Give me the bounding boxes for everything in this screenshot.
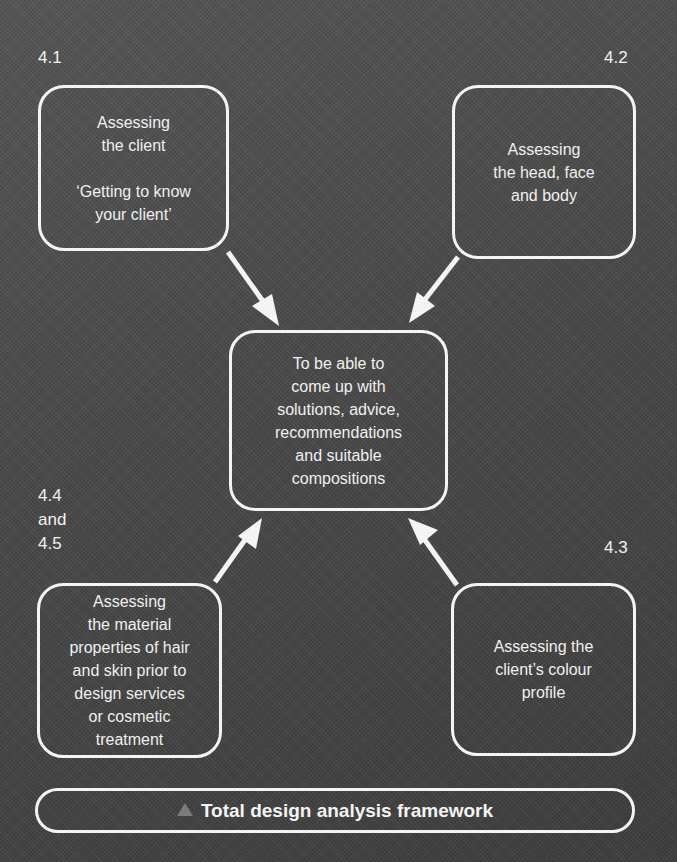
node-text: Assessing the material properties of hai… (69, 590, 189, 751)
node-text: Assessing the head, face and body (493, 138, 594, 207)
node-assessing-the-client: Assessing the client ‘Getting to know yo… (38, 85, 229, 251)
node-text: To be able to come up with solutions, ad… (275, 352, 402, 490)
label-4-2: 4.2 (604, 46, 628, 70)
arrow-4-4-to-center (215, 518, 262, 582)
label-4-3: 4.3 (604, 536, 628, 560)
node-colour-profile: Assessing the client’s colour profile (451, 583, 636, 756)
framework-title: Total design analysis framework (201, 800, 493, 822)
label-and: and (38, 508, 66, 532)
label-4-4: 4.4 (38, 484, 66, 508)
node-text: Assessing the client ‘Getting to know yo… (76, 111, 191, 226)
arrow-4-2-to-center (409, 257, 458, 323)
triangle-icon (177, 803, 193, 816)
node-center-solutions: To be able to come up with solutions, ad… (229, 330, 448, 511)
arrow-4-1-to-center (228, 252, 279, 326)
label-4-4-and-4-5: 4.4 and 4.5 (38, 484, 66, 556)
node-assessing-head-face-body: Assessing the head, face and body (452, 85, 636, 259)
framework-title-banner: Total design analysis framework (35, 788, 635, 833)
arrow-4-3-to-center (408, 518, 457, 585)
node-material-properties: Assessing the material properties of hai… (37, 583, 222, 758)
node-text: Assessing the client’s colour profile (494, 635, 594, 704)
label-4-1: 4.1 (38, 46, 62, 70)
label-4-5: 4.5 (38, 532, 66, 556)
